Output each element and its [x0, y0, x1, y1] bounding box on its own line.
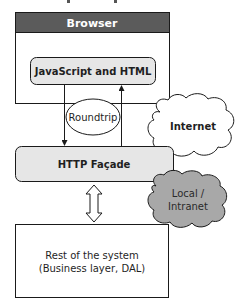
- client-layer-label: JavaScript and HTML: [34, 66, 152, 77]
- roundtrip-label: Roundtrip: [69, 112, 118, 123]
- backend-label-line1: Rest of the system: [45, 250, 139, 261]
- roundtrip-ellipse: Roundtrip: [66, 99, 120, 135]
- backend-box: Rest of the system (Business layer, DAL): [16, 225, 169, 298]
- http-facade-label: HTTP Façade: [58, 159, 131, 170]
- architecture-diagram: Browser JavaScript and HTML Internet Rou…: [0, 0, 244, 308]
- double-arrow-icon: [86, 185, 102, 222]
- internet-label: Internet: [170, 121, 216, 132]
- intranet-label-line1: Local /: [172, 188, 205, 199]
- intranet-cloud: Local / Intranet: [148, 170, 227, 227]
- browser-title: Browser: [67, 17, 119, 30]
- intranet-label-line2: Intranet: [168, 201, 208, 212]
- cropped-text-fragments: [67, 0, 117, 3]
- http-facade-box: HTTP Façade: [16, 147, 174, 182]
- backend-label-line2: (Business layer, DAL): [39, 263, 146, 274]
- client-layer-box: JavaScript and HTML: [31, 58, 156, 85]
